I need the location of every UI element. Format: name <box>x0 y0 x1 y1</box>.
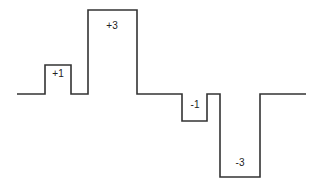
pulse-label-minus-3: -3 <box>236 157 245 168</box>
pulse-label-plus-3: +3 <box>106 20 118 31</box>
waveform-line <box>17 10 306 177</box>
step-waveform-diagram: +1 +3 -1 -3 <box>0 0 324 189</box>
pulse-label-minus-1: -1 <box>191 99 200 110</box>
pulse-label-plus-1: +1 <box>52 68 64 79</box>
